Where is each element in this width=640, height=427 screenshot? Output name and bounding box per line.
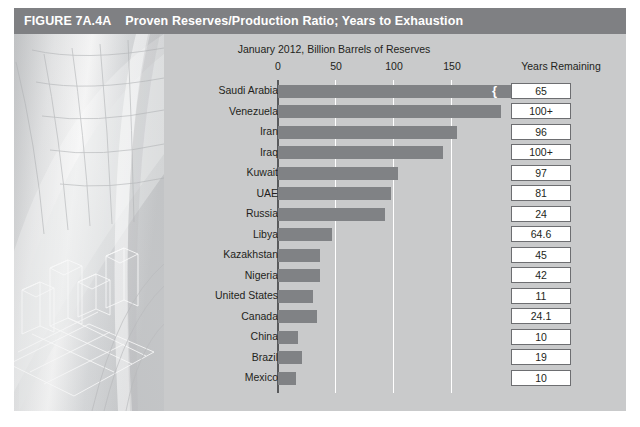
bar: [278, 208, 386, 221]
figure-container: FIGURE 7A.4A Proven Reserves/Production …: [14, 8, 626, 411]
category-label: Mexico: [245, 371, 278, 383]
x-tick-50: 50: [330, 60, 342, 72]
years-remaining-box: 100+: [511, 144, 571, 160]
chart-row: Brazil19: [164, 348, 626, 369]
chart-row: Iraq100+: [164, 143, 626, 164]
years-remaining-box: 64.6: [511, 226, 571, 242]
years-remaining-box: 81: [511, 185, 571, 201]
chart-row: China10: [164, 327, 626, 348]
plot-area: Saudi Arabia{26565Venezuela100+Iran96Ira…: [164, 80, 626, 402]
years-remaining-box: 24: [511, 206, 571, 222]
years-remaining-box: 10: [511, 329, 571, 345]
x-tick-100: 100: [385, 60, 403, 72]
category-label: Saudi Arabia: [218, 84, 278, 96]
bar: [278, 126, 458, 139]
chart-panel: January 2012, Billion Barrels of Reserve…: [164, 34, 626, 411]
bar: [278, 146, 444, 159]
figure-number: FIGURE 7A.4A: [24, 14, 111, 28]
category-label: China: [251, 330, 278, 342]
years-remaining-box: 96: [511, 124, 571, 140]
bar: [278, 331, 299, 344]
bar: [278, 351, 302, 364]
category-label: Kazakhstan: [223, 248, 278, 260]
category-label: Iraq: [260, 146, 278, 158]
bar: [278, 269, 321, 282]
x-tick-0: 0: [275, 60, 281, 72]
category-label: United States: [215, 289, 278, 301]
bar: [278, 310, 317, 323]
years-remaining-box: 42: [511, 267, 571, 283]
category-label: Venezuela: [229, 105, 278, 117]
chart-subtitle: January 2012, Billion Barrels of Reserve…: [164, 43, 504, 55]
chart-row: Kazakhstan45: [164, 245, 626, 266]
chart-row: UAE81: [164, 184, 626, 205]
category-label: Russia: [246, 207, 278, 219]
category-label: Canada: [241, 310, 278, 322]
years-remaining-box: 19: [511, 349, 571, 365]
category-label: Kuwait: [246, 166, 278, 178]
years-remaining-box: 100+: [511, 103, 571, 119]
bar: [278, 249, 321, 262]
category-label: Libya: [253, 228, 278, 240]
figure-body: January 2012, Billion Barrels of Reserve…: [14, 34, 626, 411]
years-remaining-box: 65: [511, 83, 571, 99]
chart-row: Canada24.1: [164, 307, 626, 328]
category-label: Nigeria: [245, 269, 278, 281]
years-remaining-header: Years Remaining: [501, 60, 621, 72]
bar: [278, 105, 502, 118]
category-label: Brazil: [252, 351, 278, 363]
figure-title: Proven Reserves/Production Ratio; Years …: [125, 14, 463, 28]
bar: [278, 228, 333, 241]
bar: [278, 290, 314, 303]
chart-row: Russia24: [164, 204, 626, 225]
chart-row: United States11: [164, 286, 626, 307]
category-label: UAE: [256, 187, 278, 199]
figure-title-bar: FIGURE 7A.4A Proven Reserves/Production …: [14, 8, 626, 34]
axis-break-icon: {: [490, 82, 499, 99]
x-tick-150: 150: [443, 60, 461, 72]
chart-row: Mexico10: [164, 368, 626, 389]
chart-row: Iran96: [164, 122, 626, 143]
years-remaining-box: 97: [511, 165, 571, 181]
chart-row: Kuwait97: [164, 163, 626, 184]
bar: [278, 372, 297, 385]
chart-row: Nigeria42: [164, 266, 626, 287]
bar: [278, 187, 392, 200]
chart-row: Libya64.6: [164, 225, 626, 246]
bar: [278, 167, 399, 180]
artwork-svg: [14, 34, 164, 411]
category-label: Iran: [260, 125, 278, 137]
years-remaining-box: 10: [511, 370, 571, 386]
years-remaining-box: 45: [511, 247, 571, 263]
chart-row: Venezuela100+: [164, 102, 626, 123]
years-remaining-box: 24.1: [511, 308, 571, 324]
chart-row: Saudi Arabia{26565: [164, 81, 626, 102]
years-remaining-box: 11: [511, 288, 571, 304]
decorative-artwork: [14, 34, 164, 411]
